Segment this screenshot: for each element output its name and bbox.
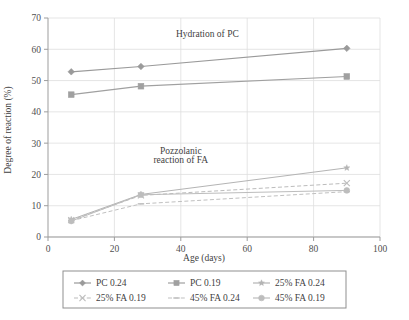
chart-annotation-label: reaction of FA bbox=[153, 155, 208, 165]
x-axis-tick-label: 0 bbox=[46, 244, 51, 254]
chart-annotation-label: Hydration of PC bbox=[176, 29, 239, 39]
data-point-marker bbox=[68, 69, 75, 76]
gridlines bbox=[48, 18, 380, 237]
line-chart: 010203040506070 020406080100 Hydration o… bbox=[0, 0, 409, 320]
data-point-marker bbox=[344, 188, 350, 194]
series-line bbox=[71, 77, 347, 95]
y-axis-title: Degree of reaction (%) bbox=[3, 86, 14, 173]
legend-item-label: PC 0.19 bbox=[190, 278, 221, 288]
data-point-marker bbox=[174, 280, 179, 285]
series-line bbox=[71, 48, 347, 71]
x-axis-tick-labels: 020406080100 bbox=[46, 237, 388, 254]
axis-lines bbox=[48, 18, 380, 237]
legend-item-label: 45% FA 0.19 bbox=[275, 293, 325, 303]
series-line bbox=[71, 192, 347, 221]
data-point-marker bbox=[259, 295, 265, 301]
data-series bbox=[68, 74, 349, 98]
y-axis-tick-label: 60 bbox=[32, 45, 42, 55]
legend-item-label: PC 0.24 bbox=[96, 278, 127, 288]
data-series-layer bbox=[68, 45, 350, 224]
y-axis-tick-labels: 010203040506070 bbox=[32, 13, 49, 242]
y-axis-tick-label: 70 bbox=[32, 13, 42, 23]
y-axis-tick-label: 20 bbox=[32, 170, 42, 180]
chart-figure: 010203040506070 020406080100 Hydration o… bbox=[0, 0, 409, 320]
legend-item-label: 45% FA 0.24 bbox=[190, 293, 240, 303]
y-axis-tick-label: 40 bbox=[32, 107, 42, 117]
legend-item-label: 25% FA 0.19 bbox=[96, 293, 146, 303]
data-point-marker bbox=[138, 192, 144, 198]
data-point-marker bbox=[344, 45, 351, 52]
y-axis-tick-label: 30 bbox=[32, 139, 42, 149]
x-axis-tick-label: 20 bbox=[110, 244, 120, 254]
x-axis-title: Age (days) bbox=[183, 253, 225, 264]
y-axis-tick-label: 10 bbox=[32, 201, 42, 211]
legend-item-label: 25% FA 0.24 bbox=[275, 278, 325, 288]
chart-legend: PC 0.24PC 0.1925% FA 0.2425% FA 0.1945% … bbox=[63, 271, 346, 308]
data-point-marker bbox=[68, 218, 74, 224]
data-point-marker bbox=[344, 74, 350, 80]
data-series bbox=[68, 180, 350, 223]
x-axis-tick-label: 80 bbox=[309, 244, 319, 254]
data-point-marker bbox=[68, 92, 74, 98]
data-point-marker bbox=[344, 165, 350, 171]
y-axis-tick-label: 50 bbox=[32, 76, 42, 86]
data-point-marker bbox=[138, 63, 145, 70]
series-line bbox=[71, 183, 347, 220]
data-point-marker bbox=[138, 83, 144, 89]
x-axis-tick-label: 60 bbox=[242, 244, 252, 254]
y-axis-tick-label: 0 bbox=[36, 232, 41, 242]
x-axis-tick-label: 100 bbox=[373, 244, 388, 254]
